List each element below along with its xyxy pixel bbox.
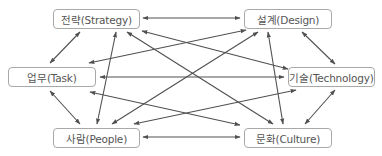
edge-task-culture <box>90 92 240 125</box>
node-label-strategy: 전략(Strategy) <box>61 12 132 27</box>
edge-strategy-people <box>97 32 116 124</box>
node-people: 사람(People) <box>53 128 140 148</box>
diagram-canvas: 전략(Strategy) 설계(Design) 업무(Task) 기술(Tech… <box>0 0 382 156</box>
node-label-design: 설계(Design) <box>257 12 319 27</box>
edge-task-people <box>50 91 80 124</box>
node-culture: 문화(Culture) <box>244 128 332 148</box>
node-technology: 기술(Technology) <box>288 67 375 87</box>
node-label-people: 사람(People) <box>66 131 127 146</box>
edge-design-people <box>112 32 258 124</box>
node-task: 업무(Task) <box>8 67 96 87</box>
node-strategy: 전략(Strategy) <box>53 9 140 29</box>
node-label-culture: 문화(Culture) <box>256 131 320 146</box>
node-design: 설계(Design) <box>244 9 332 29</box>
edge-design-technology <box>302 32 335 64</box>
edge-strategy-task <box>50 32 80 63</box>
edge-technology-culture <box>305 90 335 124</box>
edge-design-culture <box>268 32 283 124</box>
node-label-technology: 기술(Technology) <box>289 70 373 85</box>
node-label-task: 업무(Task) <box>27 70 76 85</box>
